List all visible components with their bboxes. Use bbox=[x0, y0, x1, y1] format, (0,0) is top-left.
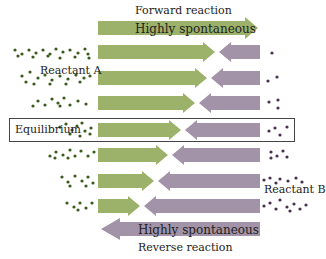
molecule-dot bbox=[60, 175, 63, 178]
molecule-dot bbox=[88, 132, 91, 135]
molecule-dot bbox=[298, 207, 301, 210]
molecule-dot bbox=[266, 79, 269, 82]
molecule-dot bbox=[53, 156, 56, 159]
molecule-dot bbox=[278, 198, 281, 201]
molecule-dot bbox=[267, 100, 270, 103]
molecule-dot bbox=[276, 98, 279, 101]
molecule-dot bbox=[48, 82, 51, 85]
molecule-dot bbox=[268, 201, 271, 204]
molecule-dot bbox=[281, 149, 284, 152]
reverse-row-arrow bbox=[185, 120, 260, 140]
molecule-dot bbox=[54, 150, 57, 153]
forward-row-arrow bbox=[98, 196, 140, 216]
molecule-dot bbox=[273, 126, 276, 129]
molecule-dot bbox=[41, 48, 44, 51]
molecule-dot bbox=[20, 74, 23, 77]
reverse-row-arrow bbox=[172, 145, 260, 165]
molecule-dot bbox=[269, 150, 272, 153]
molecule-dot bbox=[87, 56, 90, 59]
molecule-dot bbox=[86, 154, 89, 157]
molecule-dot bbox=[84, 206, 87, 209]
molecule-dot bbox=[91, 181, 94, 184]
molecule-dot bbox=[84, 184, 87, 187]
reverse-reaction-label: Reverse reaction bbox=[138, 241, 233, 254]
molecule-dot bbox=[54, 47, 57, 50]
molecule-dot bbox=[73, 154, 76, 157]
molecule-dot bbox=[36, 99, 39, 102]
molecule-dot bbox=[66, 156, 69, 159]
molecule-dot bbox=[269, 156, 272, 159]
molecule-dot bbox=[50, 97, 53, 100]
molecule-dot bbox=[92, 150, 95, 153]
molecule-dot bbox=[34, 51, 37, 54]
molecule-dot bbox=[285, 205, 288, 208]
molecule-dot bbox=[80, 179, 83, 182]
molecule-dot bbox=[65, 201, 68, 204]
molecule-dot bbox=[28, 70, 31, 73]
molecule-dot bbox=[278, 133, 281, 136]
molecule-dot bbox=[285, 125, 288, 128]
forward-arrow-text: Highly spontaneous bbox=[135, 22, 256, 36]
reverse-row-arrow bbox=[158, 171, 260, 191]
molecule-dot bbox=[31, 55, 34, 58]
molecule-dot bbox=[46, 54, 49, 57]
molecule-dot bbox=[84, 102, 87, 105]
molecule-dot bbox=[58, 56, 61, 59]
forward-row-arrow bbox=[98, 93, 195, 113]
molecule-dot bbox=[56, 101, 59, 104]
molecule-dot bbox=[66, 180, 69, 183]
forward-row-arrow bbox=[98, 171, 154, 191]
molecule-dot bbox=[294, 176, 297, 179]
molecule-dot bbox=[61, 50, 64, 53]
molecule-dot bbox=[78, 80, 81, 83]
reactant-a-label: Reactant A bbox=[40, 64, 101, 77]
molecule-dot bbox=[32, 82, 35, 85]
molecule-dot bbox=[48, 154, 51, 157]
molecule-dot bbox=[16, 54, 19, 57]
molecule-dot bbox=[73, 174, 76, 177]
molecule-dot bbox=[275, 154, 278, 157]
molecule-dot bbox=[270, 51, 273, 54]
molecule-dot bbox=[68, 184, 71, 187]
equilibrium-label: Equilibrium bbox=[15, 123, 81, 136]
forward-row-arrow bbox=[98, 68, 207, 88]
molecule-dot bbox=[72, 205, 75, 208]
molecule-dot bbox=[288, 209, 291, 212]
molecule-dot bbox=[304, 203, 307, 206]
molecule-dot bbox=[285, 155, 288, 158]
molecule-dot bbox=[78, 201, 81, 204]
molecule-dot bbox=[20, 52, 23, 55]
reverse-arrow-text: Highly spontaneous bbox=[138, 223, 259, 237]
molecule-dot bbox=[58, 104, 61, 107]
forward-row-arrow bbox=[98, 145, 168, 165]
forward-row-arrow bbox=[98, 120, 181, 140]
molecule-dot bbox=[13, 48, 16, 51]
molecule-dot bbox=[79, 149, 82, 152]
molecule-dot bbox=[62, 96, 65, 99]
molecule-dot bbox=[86, 175, 89, 178]
molecule-dot bbox=[31, 104, 34, 107]
molecule-dot bbox=[275, 75, 278, 78]
reverse-row-arrow bbox=[199, 93, 260, 113]
molecule-dot bbox=[43, 103, 46, 106]
molecule-dot bbox=[262, 204, 265, 207]
reverse-row-arrow bbox=[219, 42, 260, 62]
molecule-dot bbox=[278, 177, 281, 180]
molecule-dot bbox=[76, 208, 79, 211]
molecule-dot bbox=[61, 153, 64, 156]
molecule-dot bbox=[267, 129, 270, 132]
reverse-row-arrow bbox=[144, 196, 260, 216]
molecule-dot bbox=[50, 78, 53, 81]
molecule-dot bbox=[68, 48, 71, 51]
molecule-dot bbox=[262, 178, 265, 181]
molecule-dot bbox=[274, 207, 277, 210]
molecule-dot bbox=[68, 148, 71, 151]
molecule-dot bbox=[83, 129, 86, 132]
molecule-dot bbox=[68, 103, 71, 106]
molecule-dot bbox=[66, 77, 69, 80]
molecule-dot bbox=[83, 47, 86, 50]
molecule-dot bbox=[27, 48, 30, 51]
molecule-dot bbox=[86, 52, 89, 55]
molecule-dot bbox=[73, 55, 76, 58]
reverse-row-arrow bbox=[211, 68, 260, 88]
